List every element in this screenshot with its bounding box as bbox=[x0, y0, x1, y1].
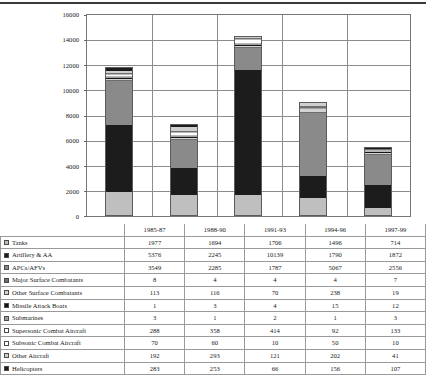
bar-column bbox=[87, 15, 152, 216]
series-name: Tanks bbox=[12, 239, 28, 246]
table-cell-value: 41 bbox=[365, 349, 425, 362]
bar-segment bbox=[170, 195, 198, 216]
stacked-bar[interactable] bbox=[105, 67, 133, 216]
table-header-row: 1985-871988-901991-931994-961997-99 bbox=[1, 224, 426, 236]
legend-swatch-icon bbox=[4, 341, 9, 346]
table-cell-value: 7 bbox=[365, 274, 425, 287]
table-cell-value: 358 bbox=[185, 324, 245, 337]
table-cell-value: 3 bbox=[125, 312, 185, 325]
stacked-bar[interactable] bbox=[234, 36, 262, 216]
table-cell-value: 66 bbox=[245, 362, 305, 375]
table-cell-value: 10 bbox=[245, 337, 305, 350]
table-cell-value: 19 bbox=[365, 286, 425, 299]
plot-area-wrapper: 1600014000120001000080006000400020000 bbox=[0, 14, 426, 236]
y-axis-tick-label: 0 bbox=[76, 213, 79, 220]
table-row: Subsonic Combat Aircraft7060105010 bbox=[1, 337, 426, 350]
y-axis-tick-mark bbox=[84, 216, 87, 217]
bar-column bbox=[152, 15, 217, 216]
stacked-bar[interactable] bbox=[170, 124, 198, 216]
table-cell-value: 116 bbox=[185, 286, 245, 299]
legend-swatch-icon bbox=[4, 316, 9, 321]
y-axis-tick-label: 10000 bbox=[63, 86, 79, 93]
legend-row-label: Major Surface Combatants bbox=[1, 274, 125, 287]
series-name: Helicopters bbox=[12, 365, 42, 372]
chart-figure: 1600014000120001000080006000400020000 19… bbox=[0, 0, 426, 382]
y-axis-tick-label: 16000 bbox=[63, 11, 79, 18]
y-axis-tick-label: 6000 bbox=[66, 137, 79, 144]
table-row: Other Surface Combatants1131167023819 bbox=[1, 286, 426, 299]
y-axis-tick-label: 12000 bbox=[63, 61, 79, 68]
table-column-header: 1991-93 bbox=[245, 224, 305, 236]
table-row: Other Aircraft19229312120241 bbox=[1, 349, 426, 362]
table-cell-value: 2556 bbox=[365, 261, 425, 274]
table-cell-value: 12 bbox=[365, 299, 425, 312]
table-row: Major Surface Combatants84447 bbox=[1, 274, 426, 287]
table-cell-value: 4 bbox=[245, 274, 305, 287]
bar-segment bbox=[364, 185, 392, 207]
table-cell-value: 1 bbox=[305, 312, 365, 325]
bar-segment bbox=[234, 48, 262, 70]
legend-row-label: Other Aircraft bbox=[1, 349, 125, 362]
bar-segment bbox=[170, 168, 198, 195]
bar-segment bbox=[364, 155, 392, 185]
table-cell-value: 1790 bbox=[305, 249, 365, 262]
bar-segment bbox=[234, 70, 262, 195]
table-cell-value: 92 bbox=[305, 324, 365, 337]
series-name: Supersonic Combat Aircraft bbox=[12, 327, 86, 334]
table-row: Missile Attack Boats1341512 bbox=[1, 299, 426, 312]
table-cell-value: 4 bbox=[245, 299, 305, 312]
table-cell-value: 121 bbox=[245, 349, 305, 362]
legend-swatch-icon bbox=[4, 328, 9, 333]
stacked-bar[interactable] bbox=[364, 147, 392, 216]
bar-segment bbox=[299, 113, 327, 175]
y-axis-tick-label: 8000 bbox=[66, 112, 79, 119]
table-cell-value: 3549 bbox=[125, 261, 185, 274]
y-axis-tick-label: 4000 bbox=[66, 162, 79, 169]
table-cell-value: 107 bbox=[365, 362, 425, 375]
y-axis-tick-label: 2000 bbox=[66, 187, 79, 194]
series-name: Subsonic Combat Aircraft bbox=[12, 339, 81, 346]
table-cell-value: 3 bbox=[365, 312, 425, 325]
table-cell-value: 1872 bbox=[365, 249, 425, 262]
series-name: APCs/AFVs bbox=[12, 264, 45, 271]
bar-column bbox=[281, 15, 346, 216]
table-cell-value: 8 bbox=[125, 274, 185, 287]
table-cell-value: 4 bbox=[185, 274, 245, 287]
table-cell-value: 10 bbox=[365, 337, 425, 350]
legend-swatch-icon bbox=[4, 353, 9, 358]
bar-segment bbox=[105, 192, 133, 216]
table-cell-value: 1706 bbox=[245, 236, 305, 249]
legend-swatch-icon bbox=[4, 265, 9, 270]
legend-row-label: Submarines bbox=[1, 312, 125, 325]
table-cell-value: 253 bbox=[185, 362, 245, 375]
y-axis-tick-label: 14000 bbox=[63, 36, 79, 43]
table-cell-value: 293 bbox=[185, 349, 245, 362]
table-cell-value: 283 bbox=[125, 362, 185, 375]
table-cell-value: 2245 bbox=[185, 249, 245, 262]
table-row: Submarines31213 bbox=[1, 312, 426, 325]
legend-row-label: Artillery & AA bbox=[1, 249, 125, 262]
table-cell-value: 60 bbox=[185, 337, 245, 350]
series-name: Artillery & AA bbox=[12, 251, 52, 258]
stacked-bar[interactable] bbox=[299, 102, 327, 216]
bar-segment bbox=[105, 81, 133, 125]
table-column-header: 1985-87 bbox=[125, 224, 185, 236]
series-name: Other Surface Combatants bbox=[12, 289, 82, 296]
legend-row-label: Supersonic Combat Aircraft bbox=[1, 324, 125, 337]
table-cell-value: 5376 bbox=[125, 249, 185, 262]
series-name: Submarines bbox=[12, 314, 43, 321]
bar-segment bbox=[234, 195, 262, 216]
bar-segment bbox=[105, 125, 133, 192]
series-name: Other Aircraft bbox=[12, 352, 49, 359]
table-cell-value: 5067 bbox=[305, 261, 365, 274]
table-corner-cell bbox=[1, 224, 125, 236]
bar-segment bbox=[299, 176, 327, 198]
legend-swatch-icon bbox=[4, 278, 9, 283]
table-row: Supersonic Combat Aircraft28835841492133 bbox=[1, 324, 426, 337]
table-row: Helicopters28325366156107 bbox=[1, 362, 426, 375]
table-cell-value: 3 bbox=[185, 299, 245, 312]
table-cell-value: 1977 bbox=[125, 236, 185, 249]
table-cell-value: 414 bbox=[245, 324, 305, 337]
legend-swatch-icon bbox=[4, 253, 9, 258]
legend-row-label: Other Surface Combatants bbox=[1, 286, 125, 299]
